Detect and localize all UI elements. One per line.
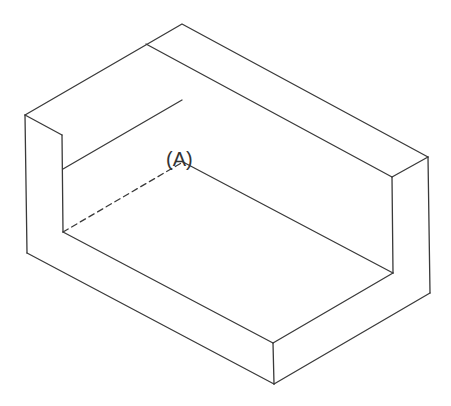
point-label-a: (A) bbox=[166, 148, 193, 171]
base-left-bottom-edge bbox=[27, 253, 274, 384]
floor-right-front-edge bbox=[273, 273, 393, 343]
inner-ledge-edge bbox=[63, 100, 182, 169]
floor-left-front-edge bbox=[63, 232, 273, 343]
top-back-edge bbox=[25, 24, 428, 157]
floor-back-edge bbox=[183, 162, 393, 273]
base-right-bottom-edge bbox=[274, 293, 430, 384]
isometric-block-drawing bbox=[0, 0, 451, 406]
left-inner-vertical-edge bbox=[62, 135, 63, 232]
right-outer-vertical-edge bbox=[428, 157, 430, 293]
hidden-edge-dashed bbox=[63, 162, 183, 232]
right-wall-top-edge bbox=[392, 157, 428, 177]
left-wall-top-edge bbox=[25, 115, 62, 135]
front-corner-vertical-edge bbox=[273, 343, 274, 384]
left-outer-vertical-edge bbox=[25, 115, 27, 253]
right-inner-vertical-edge bbox=[392, 177, 393, 273]
